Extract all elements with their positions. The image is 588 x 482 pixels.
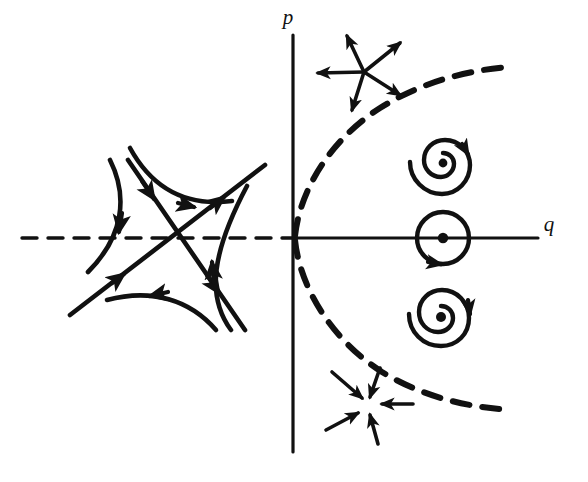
saddle-arrow-branch-bottom [150,292,168,296]
stable-node-ray-down [370,415,378,444]
unstable-spiral-focus [410,140,470,194]
unstable-spiral-curve [410,140,470,194]
stable-spiral-arrow [468,300,470,314]
saddle-branch-top [130,148,232,202]
q-axis-label: q [544,212,555,236]
stable-spiral-center-dot [436,312,446,322]
figure-root: p q [0,0,588,482]
saddle-arrow-branch-right [212,262,214,283]
center-equilibrium-dot [438,233,448,243]
phase-classification-diagram: p q [0,0,588,482]
saddle-branch-bottom [107,295,216,330]
unstable-node-ray-upright [364,43,400,72]
axes-group: p q [22,5,555,452]
parabola-lower-branch [295,240,512,410]
stable-node-ray-up [370,368,380,397]
unstable-node-ray-downright [364,72,400,95]
parabola-upper-branch [295,67,508,236]
unstable-node-star [318,36,400,110]
saddle-arrow-branch-top [178,203,194,207]
unstable-node-ray-left [318,72,364,73]
saddle-arrow-branch-left [119,213,122,232]
stable-spiral-focus [409,290,470,346]
unstable-spiral-arrow [462,144,468,154]
stable-node-ray-downleft [326,413,358,430]
saddle-arrow-incoming-upper [142,181,154,199]
saddle-branch-left [88,160,120,272]
stable-node-ray-upleft [332,372,362,398]
p-axis-label: p [281,5,294,29]
unstable-node-ray-up [347,36,364,72]
unstable-spiral-center-dot [439,159,448,168]
center-orbit-arrow [428,262,441,264]
unstable-node-ray-down [352,72,364,110]
